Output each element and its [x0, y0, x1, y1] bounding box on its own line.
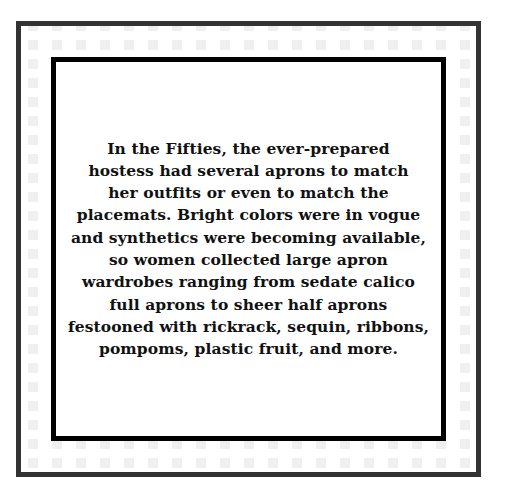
- quote-line: pompoms, plastic fruit, and more.: [68, 338, 429, 360]
- quote-line: placemats. Bright colors were in vogue: [68, 204, 429, 226]
- quote-line: wardrobes ranging from sedate calico: [68, 271, 429, 293]
- quote-line: so women collected large apron: [68, 249, 429, 271]
- quote-line: full aprons to sheer half aprons: [68, 294, 429, 316]
- quote-line: her outfits or even to match the: [68, 182, 429, 204]
- quote-line: festooned with rickrack, sequin, ribbons…: [68, 316, 429, 338]
- quote-line: In the Fifties, the ever-prepared: [68, 138, 429, 160]
- quote-line: hostess had several aprons to match: [68, 160, 429, 182]
- quote-box: In the Fifties, the ever-prepared hostes…: [51, 57, 446, 441]
- quote-line: and synthetics were becoming available,: [68, 227, 429, 249]
- quote-text: In the Fifties, the ever-prepared hostes…: [68, 138, 429, 361]
